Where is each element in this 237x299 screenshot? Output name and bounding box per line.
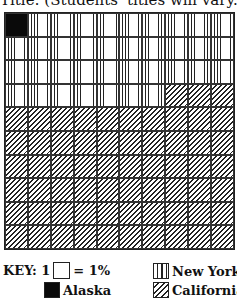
grid-cell-new-york	[5, 60, 28, 84]
unit-square-icon	[53, 262, 70, 279]
grid-cell-california	[211, 84, 234, 108]
grid-cell-new-york	[51, 84, 74, 108]
legend-item-new-york: New York	[153, 263, 237, 279]
grid-cell-new-york	[28, 60, 51, 84]
grid-cell-california	[74, 131, 97, 155]
grid-cell-new-york	[51, 60, 74, 84]
grid-cell-new-york	[188, 13, 211, 37]
grid-cell-california	[211, 225, 234, 249]
grid-cell-new-york	[74, 13, 97, 37]
grid-cell-alaska	[5, 13, 28, 37]
legend-item-alaska: Alaska	[44, 282, 111, 298]
grid-cell-new-york	[28, 84, 51, 108]
grid-cell-california	[211, 155, 234, 179]
grid-cell-new-york	[28, 37, 51, 61]
diagonal-lines-swatch-icon	[153, 282, 169, 298]
key-prefix: KEY: 1	[3, 263, 50, 278]
grid-cell-california	[5, 202, 28, 226]
percent-grid	[4, 12, 235, 250]
grid-cell-california	[119, 155, 142, 179]
grid-cell-california	[188, 84, 211, 108]
grid-cell-new-york	[142, 60, 165, 84]
legend-label: California	[172, 283, 237, 298]
grid-cell-california	[28, 131, 51, 155]
key-scale: KEY: 1 = 1%	[3, 262, 110, 279]
grid-cell-california	[74, 202, 97, 226]
grid-cell-california	[97, 131, 120, 155]
grid-cell-california	[51, 107, 74, 131]
grid-cell-california	[211, 202, 234, 226]
grid-cell-california	[165, 131, 188, 155]
grid-cell-california	[142, 178, 165, 202]
grid-cell-california	[165, 202, 188, 226]
grid-cell-new-york	[142, 37, 165, 61]
grid-cell-new-york	[119, 13, 142, 37]
grid-cell-new-york	[119, 84, 142, 108]
legend-item-california: California	[153, 282, 237, 298]
grid-cell-new-york	[74, 84, 97, 108]
grid-cell-new-york	[165, 13, 188, 37]
grid-cell-california	[188, 178, 211, 202]
grid-cell-california	[142, 225, 165, 249]
grid-cell-california	[5, 155, 28, 179]
grid-cell-california	[119, 107, 142, 131]
grid-cell-california	[97, 202, 120, 226]
grid-cell-california	[165, 155, 188, 179]
grid-cell-new-york	[119, 37, 142, 61]
grid-cell-california	[165, 225, 188, 249]
grid-cell-california	[188, 107, 211, 131]
grid-cell-california	[119, 131, 142, 155]
chart-title: Title: (Students' titles will vary.)	[0, 0, 237, 9]
grid-cell-california	[188, 131, 211, 155]
grid-cell-california	[97, 225, 120, 249]
grid-cell-california	[28, 107, 51, 131]
grid-cell-california	[97, 107, 120, 131]
grid-cell-california	[74, 155, 97, 179]
grid-cell-california	[97, 178, 120, 202]
grid-cell-california	[165, 107, 188, 131]
grid-cell-california	[5, 225, 28, 249]
grid-cell-new-york	[142, 84, 165, 108]
grid-cell-california	[5, 107, 28, 131]
grid-cell-new-york	[97, 84, 120, 108]
grid-cell-california	[51, 225, 74, 249]
grid-cell-california	[165, 84, 188, 108]
key-suffix: = 1%	[73, 263, 110, 278]
grid-cell-california	[188, 225, 211, 249]
grid-cell-california	[142, 131, 165, 155]
grid-cell-new-york	[51, 13, 74, 37]
grid-cell-california	[51, 155, 74, 179]
grid-cell-california	[28, 202, 51, 226]
grid-cell-california	[97, 155, 120, 179]
grid-cell-new-york	[5, 84, 28, 108]
grid-cell-new-york	[74, 37, 97, 61]
grid-cell-california	[142, 202, 165, 226]
grid-cell-new-york	[97, 13, 120, 37]
grid-cell-california	[119, 178, 142, 202]
vertical-lines-swatch-icon	[153, 263, 169, 279]
grid-cell-new-york	[211, 37, 234, 61]
grid-cell-california	[5, 131, 28, 155]
grid-cell-new-york	[165, 60, 188, 84]
grid-cell-california	[5, 178, 28, 202]
grid-cell-new-york	[74, 60, 97, 84]
grid-cell-california	[188, 155, 211, 179]
grid-cell-california	[142, 107, 165, 131]
grid-cell-new-york	[165, 37, 188, 61]
grid-cell-california	[119, 202, 142, 226]
grid-cell-new-york	[211, 13, 234, 37]
grid-cell-california	[142, 155, 165, 179]
grid-cell-california	[51, 131, 74, 155]
grid-cell-new-york	[188, 37, 211, 61]
grid-cell-california	[74, 107, 97, 131]
grid-cell-california	[74, 225, 97, 249]
grid-cell-california	[51, 202, 74, 226]
solid-black-swatch-icon	[44, 282, 60, 298]
grid-cell-new-york	[51, 37, 74, 61]
grid-cell-california	[211, 131, 234, 155]
grid-cell-california	[28, 155, 51, 179]
grid-cell-new-york	[5, 37, 28, 61]
grid-cell-new-york	[28, 13, 51, 37]
legend-label: New York	[172, 264, 237, 279]
grid-cell-california	[119, 225, 142, 249]
